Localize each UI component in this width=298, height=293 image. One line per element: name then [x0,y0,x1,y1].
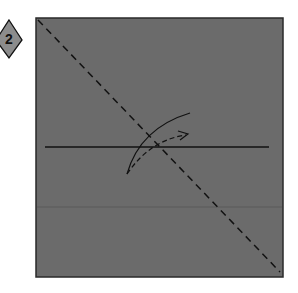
fold-diagram [0,0,298,293]
step-number: 2 [3,31,15,47]
